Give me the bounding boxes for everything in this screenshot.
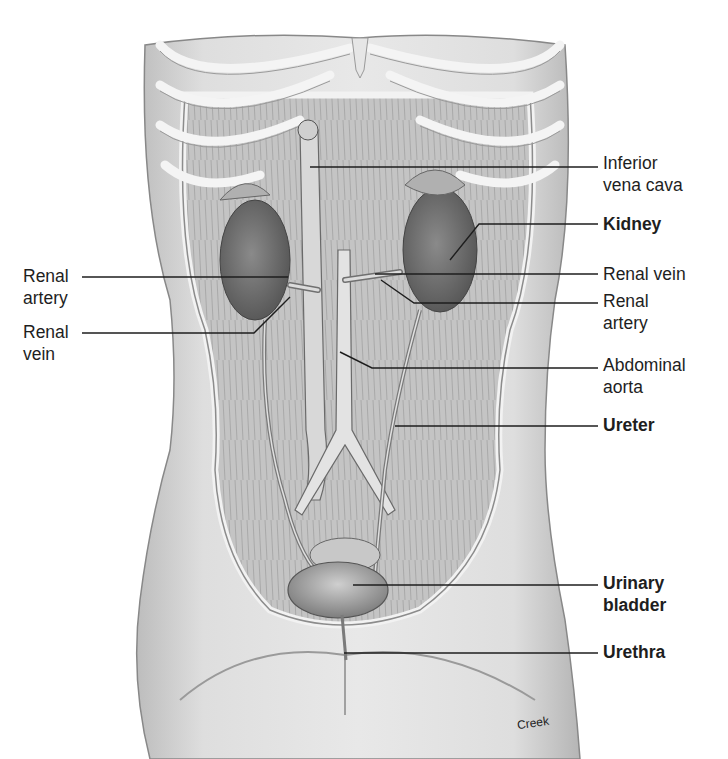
label-line: artery (603, 312, 649, 334)
label-renal-artery-right: Renal artery (603, 290, 649, 334)
label-line: Renal (603, 290, 649, 312)
label-urethra: Urethra (603, 641, 665, 663)
label-line: Urethra (603, 641, 665, 663)
label-line: Renal (23, 265, 69, 287)
bladder (288, 562, 388, 618)
label-abdominal-aorta: Abdominal aorta (603, 354, 686, 398)
label-renal-vein-right: Renal vein (603, 263, 686, 285)
label-line: aorta (603, 376, 686, 398)
label-kidney: Kidney (603, 213, 661, 235)
label-line: Abdominal (603, 354, 686, 376)
label-ureter: Ureter (603, 414, 655, 436)
label-line: Inferior (603, 152, 683, 174)
label-line: Renal (23, 321, 69, 343)
label-line: Ureter (603, 414, 655, 436)
left-kidney (220, 200, 290, 320)
label-line: bladder (603, 594, 666, 616)
label-renal-artery-left: Renal artery (23, 265, 69, 309)
label-line: Kidney (603, 213, 661, 235)
label-line: vena cava (603, 174, 683, 196)
label-urinary-bladder: Urinary bladder (603, 572, 666, 616)
label-line: Urinary (603, 572, 666, 594)
label-line: artery (23, 287, 69, 309)
label-renal-vein-left: Renal vein (23, 321, 69, 365)
label-line: Renal vein (603, 263, 686, 285)
label-inferior-vena-cava: Inferior vena cava (603, 152, 683, 196)
label-line: vein (23, 343, 69, 365)
right-kidney (403, 188, 477, 312)
